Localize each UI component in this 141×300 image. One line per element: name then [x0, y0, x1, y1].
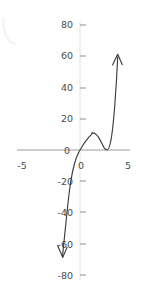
y-tick-label-0: 0	[64, 145, 70, 156]
x-tick-label-0: 0	[78, 160, 84, 171]
y-tick-label-neg80: -80	[57, 270, 73, 281]
y-tick-label-40: 40	[61, 82, 73, 93]
y-tick-label-60: 60	[61, 50, 73, 61]
function-plot: 80 60 40 20 0 -20 -40 -60 -80 -5 0 5	[0, 0, 141, 300]
y-tick-label-neg60: -60	[57, 239, 73, 250]
chart-canvas: 80 60 40 20 0 -20 -40 -60 -80 -5 0 5	[0, 0, 141, 300]
x-tick-label-5: 5	[125, 160, 131, 171]
y-tick-label-neg40: -40	[57, 207, 73, 218]
x-tick-label-neg5: -5	[17, 160, 26, 171]
y-tick-label-20: 20	[61, 113, 73, 124]
watermark-arc	[3, 18, 16, 44]
y-tick-label-80: 80	[61, 19, 73, 30]
